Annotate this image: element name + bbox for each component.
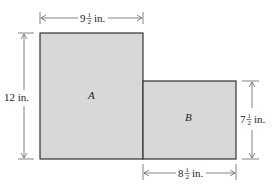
region-a-label: A — [87, 89, 95, 101]
region-b-label: B — [185, 111, 192, 123]
top-dimension — [40, 12, 143, 24]
right-dimension-whole: 7 — [240, 113, 246, 125]
top-dimension-den: 2 — [88, 18, 92, 26]
right-dimension-unit: in. — [254, 113, 266, 125]
top-dimension-whole: 9 — [80, 12, 86, 24]
left-dimension-label: 12 in. — [4, 91, 29, 103]
bottom-dimension — [143, 164, 236, 180]
top-dimension-unit: in. — [94, 12, 106, 24]
bottom-dimension-unit: in. — [192, 167, 204, 179]
composite-figure: A B 9 1 2 in. 12 in. 7 1 2 in. — [0, 0, 277, 195]
right-dimension-den: 2 — [248, 119, 252, 127]
bottom-dimension-den: 2 — [186, 173, 190, 181]
bottom-dimension-whole: 8 — [178, 167, 184, 179]
